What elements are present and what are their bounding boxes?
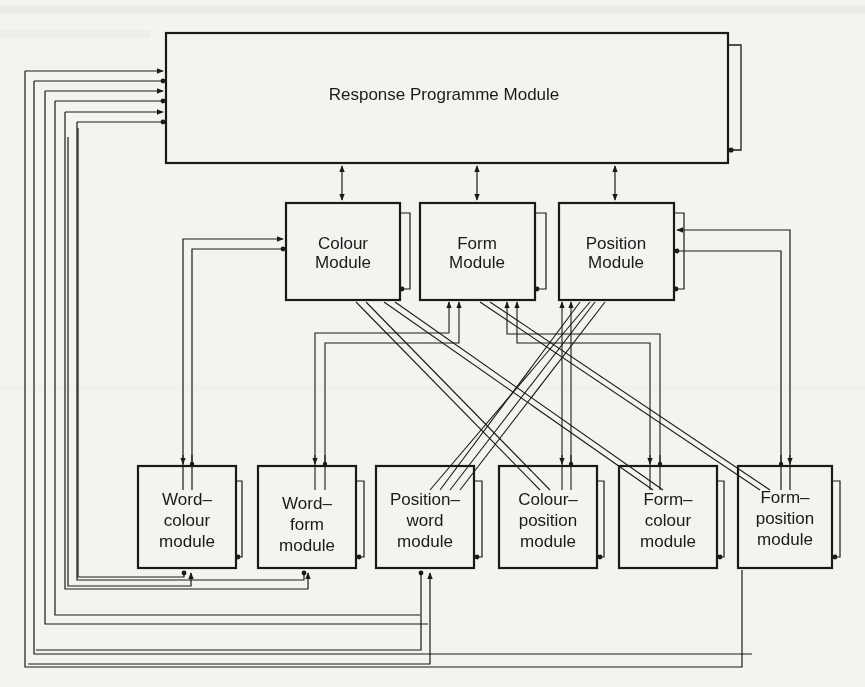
form-colour-line3: module (640, 532, 696, 551)
form-position-line2: position (756, 509, 815, 528)
colour-position-line2: position (519, 511, 578, 530)
colour-module-line2: Module (315, 253, 371, 272)
colour-module: Colour Module (286, 203, 410, 300)
form-module-line1: Form (457, 234, 497, 253)
form-colour-module: Form– colour module (619, 466, 724, 568)
diagram-page: Response Programme Module Colour Module (0, 0, 865, 687)
word-colour-module: Word– colour module (138, 466, 242, 568)
word-colour-line2: colour (164, 511, 211, 530)
word-colour-line1: Word– (162, 490, 212, 509)
form-module: Form Module (420, 203, 546, 300)
response-programme-label: Response Programme Module (329, 85, 560, 104)
word-form-line3: module (279, 536, 335, 555)
word-form-line2: form (290, 515, 324, 534)
word-form-line1: Word– (282, 494, 332, 513)
colour-module-line1: Colour (318, 234, 368, 253)
left-feedback-lines (25, 71, 752, 667)
position-word-line2: word (406, 511, 444, 530)
form-colour-line1: Form– (643, 490, 693, 509)
response-to-primary-links (342, 166, 615, 200)
position-module-line2: Module (588, 253, 644, 272)
form-position-line3: module (757, 530, 813, 549)
colour-position-line1: Colour– (518, 490, 578, 509)
position-word-line1: Position– (390, 490, 460, 509)
position-module-side-inputs (677, 230, 790, 490)
word-form-module: Word– form module (258, 466, 364, 568)
colour-position-line3: module (520, 532, 576, 551)
response-programme-module: Response Programme Module (166, 33, 741, 163)
form-position-module: Form– position module (738, 466, 840, 568)
position-module: Position Module (559, 203, 684, 300)
cross-connections (315, 302, 770, 490)
form-module-line2: Module (449, 253, 505, 272)
colour-position-module: Colour– position module (499, 466, 604, 568)
form-position-line1: Form– (760, 488, 810, 507)
module-diagram: Response Programme Module Colour Module (0, 0, 865, 687)
word-colour-line3: module (159, 532, 215, 551)
colour-module-side-inputs (183, 239, 283, 490)
position-word-line3: module (397, 532, 453, 551)
position-module-line1: Position (586, 234, 646, 253)
form-colour-line2: colour (645, 511, 692, 530)
